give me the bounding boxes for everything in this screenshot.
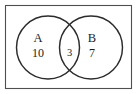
set-b-label: B	[88, 31, 96, 45]
set-b-only-count: 7	[89, 46, 95, 60]
intersection-count: 3	[67, 47, 72, 58]
set-a-only-count: 10	[32, 46, 44, 60]
set-a-label: A	[33, 31, 42, 45]
venn-diagram-figure: A 10 3 B 7	[0, 0, 138, 94]
